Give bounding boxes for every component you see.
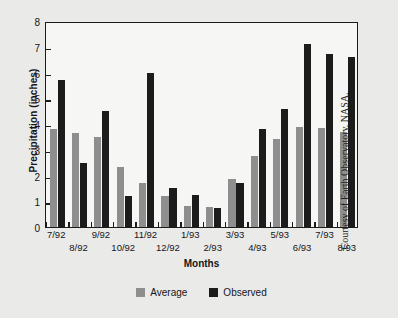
legend-entry-average: Average — [136, 287, 187, 298]
legend-swatch-icon — [136, 288, 145, 297]
x-tick-mark — [158, 222, 159, 227]
precipitation-bar-chart: Precipitation (inches) 012345678 7/928/9… — [0, 0, 362, 318]
plot-area — [45, 22, 358, 228]
y-tick-label: 4 — [24, 120, 40, 131]
x-tick-label: 8/92 — [69, 242, 88, 253]
bar-average-7-93 — [318, 128, 325, 227]
bar-average-11-92 — [139, 183, 146, 227]
bar-observed-12-92 — [169, 188, 176, 227]
bar-average-2-93 — [206, 207, 213, 227]
y-tick-mark — [46, 126, 51, 127]
bar-observed-5-93 — [281, 109, 288, 227]
bar-observed-1-93 — [192, 195, 199, 227]
bar-observed-9-92 — [102, 111, 109, 227]
x-tick-mark — [270, 222, 271, 227]
legend-entry-observed: Observed — [209, 287, 266, 298]
x-tick-mark — [46, 222, 47, 227]
x-tick-mark — [247, 222, 248, 227]
bar-average-1-93 — [184, 206, 191, 227]
y-tick-label: 0 — [24, 223, 40, 234]
y-tick-label: 8 — [24, 17, 40, 28]
bar-observed-3-93 — [236, 183, 243, 227]
bar-average-6-93 — [296, 127, 303, 227]
x-tick-label: 1/93 — [181, 229, 200, 240]
x-tick-label: 6/93 — [293, 242, 312, 253]
y-tick-mark — [46, 100, 51, 101]
x-axis-title: Months — [45, 258, 358, 269]
y-tick-label: 2 — [24, 171, 40, 182]
credit-text: Courtesy of Earth Observatory, NASA. — [339, 40, 350, 250]
x-tick-mark — [292, 222, 293, 227]
x-tick-label: 11/92 — [134, 229, 157, 240]
x-tick-mark — [314, 222, 315, 227]
x-tick-mark — [68, 222, 69, 227]
x-tick-mark — [203, 222, 204, 227]
x-tick-label: 7/92 — [47, 229, 66, 240]
x-tick-mark — [180, 222, 181, 227]
y-tick-label: 6 — [24, 68, 40, 79]
x-axis-tick-labels: 7/928/929/9210/9211/9212/921/932/933/934… — [45, 229, 358, 255]
bar-observed-11-92 — [147, 73, 154, 228]
bar-average-5-93 — [273, 139, 280, 227]
y-axis-tick-labels: 012345678 — [24, 22, 40, 228]
bar-average-9-92 — [94, 137, 101, 227]
bar-observed-6-93 — [304, 44, 311, 227]
bar-average-4-93 — [251, 156, 258, 227]
x-tick-label: 12/92 — [156, 242, 180, 253]
legend-swatch-icon — [209, 288, 218, 297]
bar-average-3-93 — [228, 179, 235, 227]
bar-observed-2-93 — [214, 208, 221, 227]
chart-legend: AverageObserved — [45, 287, 358, 298]
bar-observed-7-93 — [326, 54, 333, 227]
plot-inner — [46, 23, 357, 227]
y-tick-mark — [46, 49, 51, 50]
y-tick-label: 1 — [24, 197, 40, 208]
bar-observed-10-92 — [125, 196, 132, 227]
x-tick-label: 7/93 — [315, 229, 334, 240]
legend-label: Observed — [223, 287, 266, 298]
bar-average-12-92 — [161, 196, 168, 227]
x-tick-mark — [91, 222, 92, 227]
x-tick-mark — [225, 222, 226, 227]
x-tick-label: 9/92 — [92, 229, 111, 240]
y-tick-label: 3 — [24, 145, 40, 156]
x-tick-label: 3/93 — [226, 229, 245, 240]
x-tick-label: 2/93 — [203, 242, 222, 253]
y-tick-label: 7 — [24, 42, 40, 53]
bar-observed-8-92 — [80, 163, 87, 227]
bar-observed-4-93 — [259, 129, 266, 227]
x-tick-label: 5/93 — [271, 229, 290, 240]
bar-average-8-92 — [72, 133, 79, 227]
x-tick-mark — [113, 222, 114, 227]
bar-average-7-92 — [50, 129, 57, 227]
y-tick-mark — [46, 75, 51, 76]
legend-label: Average — [150, 287, 187, 298]
x-tick-label: 4/93 — [248, 242, 267, 253]
bar-average-10-92 — [117, 167, 124, 228]
bar-observed-7-92 — [58, 80, 65, 227]
y-tick-label: 5 — [24, 94, 40, 105]
x-tick-mark — [135, 222, 136, 227]
x-tick-label: 10/92 — [111, 242, 135, 253]
